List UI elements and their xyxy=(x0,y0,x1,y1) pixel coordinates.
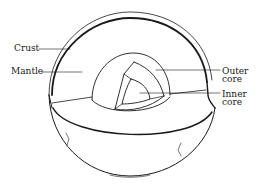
mantle-cut-right xyxy=(170,90,206,94)
label-outer-core-line2: core xyxy=(222,75,248,83)
mantle-cut-left xyxy=(52,97,92,103)
crust-mantle-boundary xyxy=(52,18,207,95)
inner-core-outline xyxy=(122,79,150,104)
label-inner-core-line2: core xyxy=(222,98,247,106)
label-mantle: Mantle xyxy=(11,67,43,75)
label-inner-core: Inner core xyxy=(222,90,247,106)
surface-detail-right xyxy=(178,143,181,156)
core-wedge-top xyxy=(115,62,134,109)
lower-hemisphere xyxy=(49,95,215,176)
core-wedge-right xyxy=(134,62,164,96)
label-outer-core: Outer core xyxy=(222,67,248,83)
right-cut-edge xyxy=(207,82,215,108)
inner-core-edge xyxy=(124,74,131,79)
surface-detail-left xyxy=(66,133,69,145)
earth-cross-section-diagram xyxy=(0,0,257,189)
equator-rim xyxy=(53,108,212,134)
label-crust: Crust xyxy=(14,44,39,52)
